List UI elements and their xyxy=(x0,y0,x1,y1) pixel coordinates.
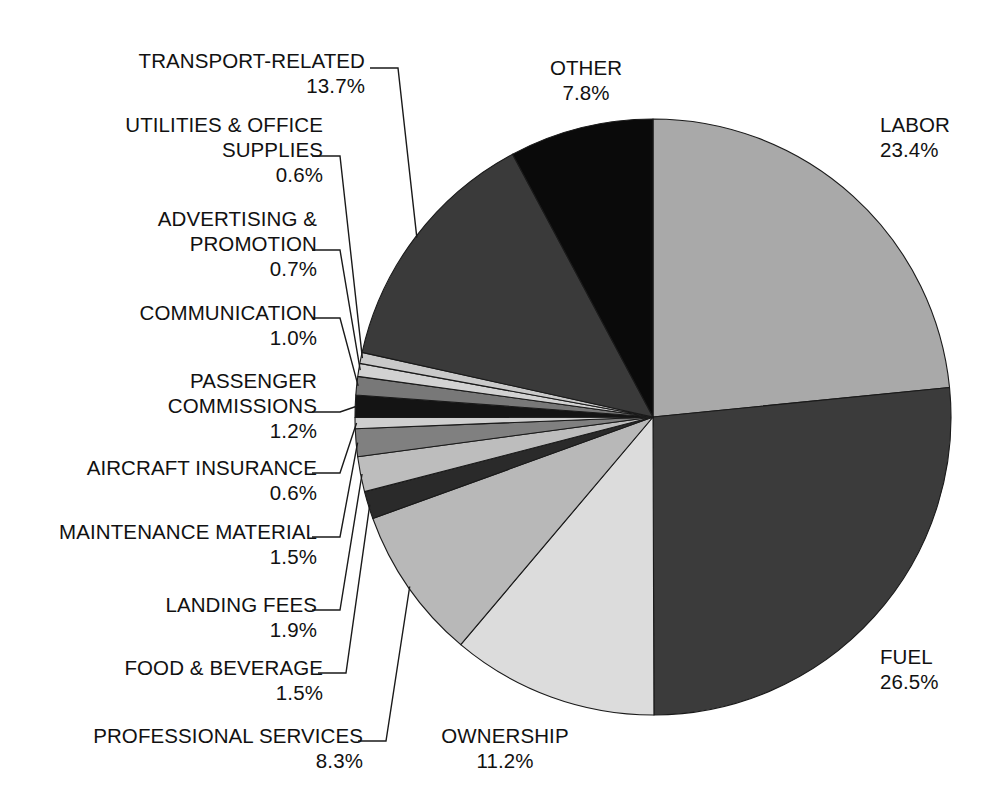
slice-label-passenger-commissions-name: PASSENGER COMMISSIONS xyxy=(5,368,317,418)
slice-label-maintenance-material-name: MAINTENANCE MATERIAL xyxy=(5,519,317,544)
slice-label-food-beverage: FOOD & BEVERAGE 1.5% xyxy=(5,655,323,705)
leader-line-professional-services xyxy=(358,587,410,742)
pie-slices-group xyxy=(355,119,951,715)
slice-label-transport-related-name: TRANSPORT-RELATED xyxy=(5,48,365,73)
slice-label-fuel-value: 26.5% xyxy=(880,669,939,694)
slice-label-maintenance-material: MAINTENANCE MATERIAL 1.5% xyxy=(5,519,317,569)
slice-label-advertising-promotion-value: 0.7% xyxy=(5,256,317,281)
slice-label-communication: COMMUNICATION 1.0% xyxy=(5,300,317,350)
slice-label-aircraft-insurance-value: 0.6% xyxy=(5,480,317,505)
slice-label-advertising-promotion: ADVERTISING & PROMOTION 0.7% xyxy=(5,206,317,281)
slice-label-ownership: OWNERSHIP 11.2% xyxy=(415,723,595,773)
leader-line-landing-fees xyxy=(312,474,362,610)
slice-label-fuel-name: FUEL xyxy=(880,644,939,669)
leader-line-maintenance-material xyxy=(312,443,358,537)
slice-label-advertising-promotion-name: ADVERTISING & PROMOTION xyxy=(5,206,317,256)
slice-label-passenger-commissions-value: 1.2% xyxy=(5,418,317,443)
slice-label-utilities-office-supplies: UTILITIES & OFFICE SUPPLIES 0.6% xyxy=(5,112,323,187)
slice-label-transport-related: TRANSPORT-RELATED 13.7% xyxy=(5,48,365,98)
slice-label-professional-services-name: PROFESSIONAL SERVICES xyxy=(5,723,363,748)
slice-label-labor-name: LABOR xyxy=(880,112,950,137)
leader-line-transport-related xyxy=(370,68,417,238)
leader-line-communication xyxy=(312,318,358,386)
slice-label-fuel: FUEL 26.5% xyxy=(880,644,939,694)
leader-line-aircraft-insurance xyxy=(312,423,357,473)
slice-label-labor-value: 23.4% xyxy=(880,137,950,162)
leader-line-passenger-commissions xyxy=(312,406,357,412)
pie-slice-labor xyxy=(653,119,950,417)
slice-label-food-beverage-name: FOOD & BEVERAGE xyxy=(5,655,323,680)
slice-label-utilities-office-supplies-name: UTILITIES & OFFICE SUPPLIES xyxy=(5,112,323,162)
slice-label-passenger-commissions: PASSENGER COMMISSIONS 1.2% xyxy=(5,368,317,443)
slice-label-landing-fees: LANDING FEES 1.9% xyxy=(5,592,317,642)
slice-label-professional-services: PROFESSIONAL SERVICES 8.3% xyxy=(5,723,363,773)
slice-label-professional-services-value: 8.3% xyxy=(5,748,363,773)
slice-label-aircraft-insurance: AIRCRAFT INSURANCE 0.6% xyxy=(5,455,317,505)
slice-label-other: OTHER 7.8% xyxy=(506,55,666,105)
slice-label-maintenance-material-value: 1.5% xyxy=(5,544,317,569)
slice-label-food-beverage-value: 1.5% xyxy=(5,680,323,705)
slice-label-communication-name: COMMUNICATION xyxy=(5,300,317,325)
slice-label-transport-related-value: 13.7% xyxy=(5,73,365,98)
slice-label-other-value: 7.8% xyxy=(506,80,666,105)
slice-label-landing-fees-name: LANDING FEES xyxy=(5,592,317,617)
slice-label-aircraft-insurance-name: AIRCRAFT INSURANCE xyxy=(5,455,317,480)
slice-label-utilities-office-supplies-value: 0.6% xyxy=(5,162,323,187)
slice-label-labor: LABOR 23.4% xyxy=(880,112,950,162)
slice-label-ownership-value: 11.2% xyxy=(415,748,595,773)
slice-label-other-name: OTHER xyxy=(506,55,666,80)
slice-label-ownership-name: OWNERSHIP xyxy=(415,723,595,748)
pie-chart-figure: LABOR 23.4% FUEL 26.5% OTHER 7.8% OWNERS… xyxy=(0,0,1006,802)
slice-label-landing-fees-value: 1.9% xyxy=(5,617,317,642)
slice-label-communication-value: 1.0% xyxy=(5,325,317,350)
